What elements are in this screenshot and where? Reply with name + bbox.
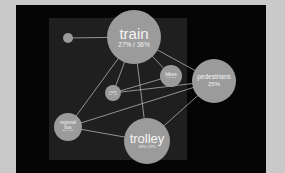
node-name: train	[118, 26, 149, 42]
node-name: pedestrians	[197, 74, 231, 81]
node-label-regional-bus[interactable]: regional bus 15% / 13%	[60, 121, 76, 133]
node-label-cars[interactable]: cars 1% / 1%	[108, 90, 117, 97]
node-percent: 15% / 13%	[60, 130, 76, 133]
node-percent: 1% / 1%	[108, 94, 117, 97]
node-percent: 25%	[197, 81, 231, 87]
node-label-train[interactable]: train 27% / 36%	[118, 26, 149, 49]
node-percent: 1% / 1%	[165, 77, 177, 80]
node-label-trolley[interactable]: trolley 28% / 27%	[130, 132, 165, 149]
node-misc[interactable]	[63, 33, 73, 43]
node-label-bikes[interactable]: bikes 1% / 1%	[165, 72, 177, 80]
node-percent: 28% / 27%	[130, 146, 165, 150]
node-percent: 27% / 36%	[118, 41, 149, 48]
node-name: trolley	[130, 132, 165, 146]
node-label-pedestrians[interactable]: pedestrians 25%	[197, 74, 231, 87]
